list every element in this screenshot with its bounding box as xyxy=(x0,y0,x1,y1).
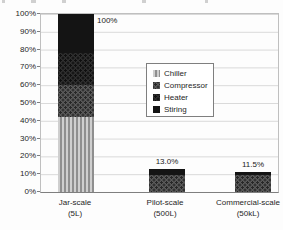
legend-label: Stiring xyxy=(164,105,187,114)
cropped-glyph xyxy=(142,0,146,3)
cropped-glyph xyxy=(2,0,5,3)
y-tick-label: 30% xyxy=(0,134,36,143)
legend-label: Heater xyxy=(164,93,188,102)
x-category-label: Jar-scale(5L) xyxy=(59,197,91,219)
stacked-bar-chart-figure: 100%90%80%70%60%50%40%30%20%10%0% 100%13… xyxy=(0,0,283,230)
legend: Chiller Compressor Heater Stiring xyxy=(146,63,214,117)
x-category-label: Commercial-scale(50kL) xyxy=(216,197,280,219)
bar-total-label: 13.0% xyxy=(156,157,179,166)
heater-swatch-icon xyxy=(153,94,160,101)
y-tick-label: 0% xyxy=(0,187,36,196)
legend-label: Chiller xyxy=(164,69,187,78)
bar-segment-compressor xyxy=(235,175,271,192)
bar-total-label: 11.5% xyxy=(242,160,264,169)
legend-item-chiller: Chiller xyxy=(153,67,213,79)
bar-segment-heater xyxy=(58,53,94,86)
y-tick-label: 60% xyxy=(0,80,36,89)
y-tick-label: 90% xyxy=(0,27,36,36)
chiller-swatch-icon xyxy=(153,70,160,77)
legend-label: Compressor xyxy=(164,81,208,90)
y-tick-label: 100% xyxy=(0,9,36,18)
stacked-bar-jar-scale xyxy=(58,14,94,192)
legend-item-compressor: Compressor xyxy=(153,79,213,91)
bar-segment-compressor xyxy=(149,175,185,192)
y-tick-label: 10% xyxy=(0,169,36,178)
y-tick-label: 80% xyxy=(0,45,36,54)
y-tick-label: 70% xyxy=(0,62,36,71)
stiring-swatch-icon xyxy=(153,106,160,113)
x-category-label: Pilot-scale(500L) xyxy=(147,197,184,219)
bar-total-label: 100% xyxy=(97,16,117,25)
cropped-glyph xyxy=(62,0,66,3)
y-tick-label: 20% xyxy=(0,151,36,160)
stacked-bar-pilot-scale xyxy=(149,169,185,192)
stacked-bar-commercial-scale xyxy=(235,172,271,192)
bar-segment-compressor xyxy=(58,85,94,117)
cropped-glyph xyxy=(31,0,36,3)
cropped-glyph xyxy=(205,0,208,3)
bar-segment-stiring xyxy=(58,14,94,53)
legend-item-heater: Heater xyxy=(153,91,213,103)
y-tick-label: 50% xyxy=(0,98,36,107)
bar-segment-chiller xyxy=(58,117,94,192)
legend-item-stiring: Stiring xyxy=(153,103,213,115)
compressor-swatch-icon xyxy=(153,82,160,89)
y-tick-label: 40% xyxy=(0,116,36,125)
